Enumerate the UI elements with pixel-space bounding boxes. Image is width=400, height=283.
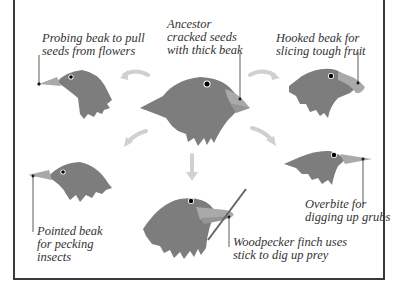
arrow-to-overbite (252, 128, 272, 140)
label-woodpecker: Woodpecker finch uses stick to dig up pr… (233, 236, 347, 262)
label-pointed: Pointed beak for pecking insects (37, 225, 103, 264)
arrow-to-pointed (128, 131, 146, 142)
arrow-to-hooked (250, 72, 274, 76)
label-ancestor: Ancestor cracked seeds with thick beak (167, 18, 243, 57)
probing-finch-head (39, 70, 112, 119)
label-probing: Probing beak to pull seeds from flowers (42, 32, 145, 58)
label-overbite: Overbite for digging up grubs (305, 198, 390, 224)
pointed-finch-head (28, 162, 112, 202)
ancestor-finch-head (140, 77, 250, 146)
overbite-finch-head (284, 151, 372, 185)
hooked-finch-head (289, 69, 365, 118)
label-hooked: Hooked beak for slicing tough fruit (276, 32, 366, 58)
woodpecker-finch-head (143, 189, 246, 259)
